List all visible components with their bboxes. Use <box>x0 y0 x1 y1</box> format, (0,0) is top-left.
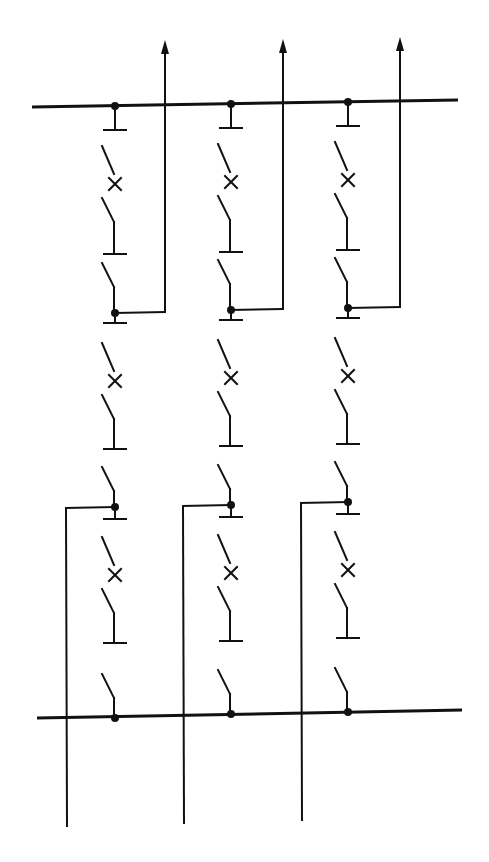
disconnector-switch <box>218 465 230 505</box>
bay-3 <box>301 37 404 820</box>
disconnector-switch <box>335 194 347 250</box>
disconnector-switch <box>335 142 347 170</box>
disconnector-switch <box>218 670 230 714</box>
breaker-x-icon <box>109 569 121 581</box>
node-dot <box>344 708 352 716</box>
disconnector-switch <box>102 589 114 643</box>
disconnector-switch <box>335 338 347 366</box>
breaker-x-icon <box>109 178 121 190</box>
disconnector-switch <box>102 198 114 254</box>
node-dot <box>227 710 235 718</box>
breaker-x-icon <box>342 564 354 576</box>
bus-top <box>32 100 458 107</box>
disconnector-switch <box>218 260 230 310</box>
disconnector-switch <box>218 535 230 563</box>
node-dot <box>111 714 119 722</box>
figure-caption <box>190 853 430 862</box>
arrow-up-icon <box>396 37 404 51</box>
bay-1 <box>66 40 169 826</box>
bays <box>66 37 404 826</box>
feeder-outgoing-up <box>348 37 404 308</box>
breaker-x-icon <box>109 375 121 387</box>
disconnector-switch <box>218 144 230 172</box>
feeder-outgoing-up <box>231 39 287 310</box>
disconnector-switch <box>335 584 347 638</box>
disconnector-switch <box>218 196 230 252</box>
arrow-up-icon <box>161 40 169 54</box>
disconnector-switch <box>102 146 114 174</box>
breaker-x-icon <box>342 174 354 186</box>
bus-bottom <box>37 710 462 718</box>
disconnector-switch <box>102 674 114 718</box>
bay-2 <box>183 39 287 823</box>
disconnector-switch <box>335 462 347 502</box>
breaker-x-icon <box>225 567 237 579</box>
disconnector-switch <box>102 343 114 371</box>
wiring-diagram <box>0 0 489 862</box>
breaker-x-icon <box>225 372 237 384</box>
busbars <box>32 100 462 718</box>
disconnector-switch <box>335 258 347 308</box>
disconnector-switch <box>218 340 230 368</box>
disconnector-switch <box>335 390 347 444</box>
disconnector-switch <box>335 668 347 712</box>
disconnector-switch <box>102 395 114 449</box>
disconnector-switch <box>335 532 347 560</box>
feeder-outgoing-down <box>66 507 115 826</box>
breaker-x-icon <box>342 370 354 382</box>
disconnector-switch <box>102 537 114 565</box>
breaker-x-icon <box>225 176 237 188</box>
feeder-outgoing-down <box>301 502 348 820</box>
disconnector-switch <box>218 587 230 641</box>
feeder-outgoing-down <box>183 505 231 823</box>
disconnector-switch <box>102 263 114 313</box>
disconnector-switch <box>218 392 230 446</box>
arrow-up-icon <box>279 39 287 53</box>
disconnector-switch <box>102 467 114 507</box>
feeder-outgoing-up <box>115 40 169 313</box>
